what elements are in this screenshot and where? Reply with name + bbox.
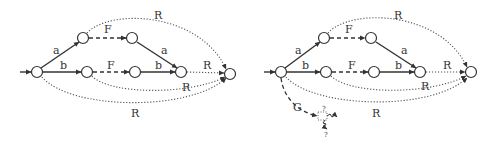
label-R-lower-arc: R xyxy=(182,81,191,94)
state-final xyxy=(466,67,477,78)
state-upper-2 xyxy=(127,33,138,44)
label-b-lower: b xyxy=(60,59,67,72)
label-R-merge-final: R xyxy=(203,59,212,72)
label-F-upper: F xyxy=(345,23,353,36)
label-b-merge: b xyxy=(155,59,162,72)
label-R-merge-final: R xyxy=(443,59,452,72)
edge-R-bottom-arc xyxy=(42,77,226,103)
label-a-upper: a xyxy=(295,44,302,57)
state-merge xyxy=(176,67,187,78)
label-R-lower-arc: R xyxy=(421,80,430,93)
state-lower-1 xyxy=(82,67,93,78)
label-q2: ? xyxy=(324,131,328,139)
edge-R-lower-arc xyxy=(331,76,466,90)
label-F-lower: F xyxy=(348,59,356,72)
label-a-merge: a xyxy=(161,44,168,57)
state-start xyxy=(32,67,43,78)
edge-R-merge-final xyxy=(187,72,224,73)
left-diagram: a F a b F b R R R R xyxy=(20,9,236,120)
label-q1: ? xyxy=(322,105,326,113)
state-merge xyxy=(415,67,426,78)
label-R-bottom-arc: R xyxy=(131,107,140,120)
label-F-upper: F xyxy=(104,23,112,36)
edge-R-lower-arc xyxy=(92,76,225,90)
state-start xyxy=(276,67,287,78)
label-b-lower: b xyxy=(302,59,309,72)
state-lower-2 xyxy=(369,67,380,78)
state-final xyxy=(225,69,236,80)
label-R-top-arc: R xyxy=(154,9,163,22)
label-R-bottom-arc: R xyxy=(372,107,381,120)
label-a-upper: a xyxy=(53,44,60,57)
state-upper-1 xyxy=(78,33,89,44)
right-diagram: a F a b F b R R R R G ? ? xyxy=(264,9,477,139)
state-upper-1 xyxy=(319,33,330,44)
automata-figure: a F a b F b R R R R a xyxy=(0,0,495,144)
state-lower-1 xyxy=(321,67,332,78)
state-upper-2 xyxy=(366,33,377,44)
label-G: G xyxy=(293,101,302,114)
label-R-top-arc: R xyxy=(394,9,403,22)
squiggle-arrow-right xyxy=(327,114,337,117)
squiggle-arrow-down xyxy=(323,120,327,129)
label-b-merge: b xyxy=(395,59,402,72)
unknown-state xyxy=(318,112,327,120)
label-F-lower: F xyxy=(107,59,115,72)
label-a-merge: a xyxy=(401,44,408,57)
state-lower-2 xyxy=(130,67,141,78)
